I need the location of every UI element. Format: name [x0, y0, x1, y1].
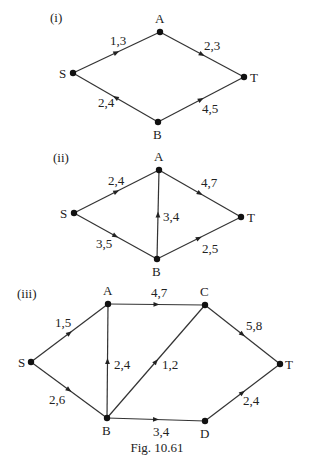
node-S [71, 210, 77, 216]
node-label: B [152, 264, 161, 279]
labels-layer: (i)1,32,32,44,5SATB(ii)2,44,73,53,42,5SA… [17, 10, 293, 441]
edge-label: 4,7 [151, 285, 168, 300]
arrow-icon [112, 232, 118, 237]
figure-caption: Fig. 10.61 [130, 440, 183, 455]
arrow-icon [196, 190, 202, 195]
node-label: T [247, 210, 255, 225]
node-label: B [153, 127, 162, 142]
arrow-icon [113, 51, 119, 56]
node-B [104, 415, 110, 421]
edge-label: 5,8 [246, 318, 262, 333]
node-T [277, 361, 283, 367]
edge-label: 1,3 [110, 33, 126, 48]
node-label: S [59, 66, 66, 81]
arrow-icon [113, 190, 119, 195]
node-label: T [250, 70, 258, 85]
edge-label: 1,5 [55, 315, 71, 330]
node-C [202, 302, 208, 308]
node-T [241, 74, 247, 80]
network-diagrams: (i)1,32,32,44,5SATB(ii)2,44,73,53,42,5SA… [0, 0, 312, 473]
edge-label: 1,2 [162, 357, 178, 372]
network-label: (iii) [17, 286, 37, 301]
edge-label: 2,5 [202, 241, 218, 256]
arrow-icon [195, 237, 201, 242]
node-label: S [60, 206, 67, 221]
edge-label: 2,4 [108, 173, 125, 188]
node-label: T [285, 357, 293, 372]
edge-label: 2,4 [114, 357, 131, 372]
arrow-icon [105, 358, 110, 364]
arrow-icon [153, 302, 159, 307]
node-label: C [200, 284, 209, 299]
edge-label: 2,4 [98, 95, 115, 110]
node-S [28, 359, 34, 365]
node-B [154, 256, 160, 262]
edge-label: 4,7 [201, 175, 218, 190]
node-label: S [18, 355, 25, 370]
node-label: A [155, 11, 165, 26]
node-A [157, 29, 163, 35]
node-label: A [103, 283, 113, 298]
edge-label: 2,4 [243, 393, 260, 408]
arrow-icon [156, 212, 161, 218]
node-A [105, 301, 111, 307]
node-S [70, 70, 76, 76]
edges-layer [31, 32, 280, 422]
network-label: (i) [50, 10, 62, 25]
network-label: (ii) [53, 150, 69, 165]
edge-label: 2,3 [204, 38, 220, 53]
arrow-icon [153, 417, 159, 422]
node-label: B [102, 423, 111, 438]
node-label: D [200, 426, 209, 441]
edge-label: 3,5 [96, 236, 112, 251]
node-label: A [154, 149, 164, 164]
edge-label: 2,6 [49, 392, 66, 407]
node-B [155, 119, 161, 125]
arrow-icon [65, 386, 71, 391]
edge-label: 3,4 [153, 424, 170, 439]
node-D [202, 418, 208, 424]
node-A [156, 167, 162, 173]
edge-label: 4,5 [202, 101, 218, 116]
edge-label: 3,4 [163, 209, 180, 224]
node-T [238, 214, 244, 220]
